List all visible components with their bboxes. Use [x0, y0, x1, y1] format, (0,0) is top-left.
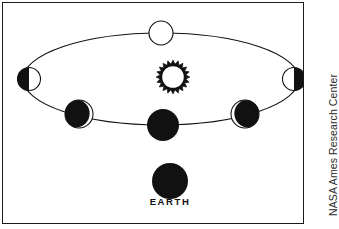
- earth-disc: [152, 163, 188, 199]
- moon-top: [149, 21, 173, 45]
- diagram-panel: EARTH: [2, 2, 304, 224]
- moon-lower-left: [62, 100, 93, 129]
- moon-lower-right-shadow: [234, 100, 262, 128]
- moon-bottom: [147, 109, 179, 141]
- moon-right: [283, 68, 304, 91]
- credit-label: NASA Ames Research Center: [327, 74, 339, 216]
- moon-left: [18, 68, 41, 91]
- moon-right-shadow: [294, 68, 303, 91]
- sun-disc: [162, 66, 185, 89]
- credit-container: NASA Ames Research Center: [306, 0, 336, 229]
- moon-phases-diagram: EARTH: [3, 3, 303, 223]
- earth-label: EARTH: [150, 196, 191, 207]
- moon-bottom-shadow: [147, 109, 179, 141]
- moon-lower-left-shadow: [62, 100, 90, 128]
- sun-layer: [156, 60, 190, 94]
- moon-left-shadow: [18, 68, 30, 91]
- earth-layer: [152, 163, 188, 199]
- moon-top-disc: [149, 21, 173, 45]
- moon-lower-right: [231, 100, 262, 129]
